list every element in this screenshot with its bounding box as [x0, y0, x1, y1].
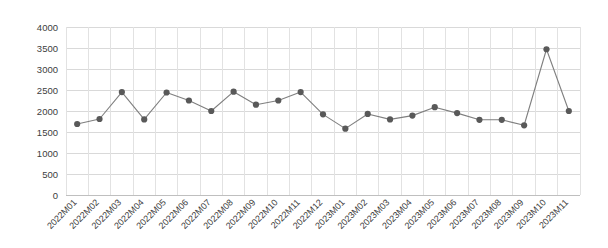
data-point[interactable] — [566, 108, 572, 114]
data-point[interactable] — [365, 111, 371, 117]
data-point[interactable] — [275, 97, 281, 103]
data-point[interactable] — [320, 111, 326, 117]
y-tick-label: 3500 — [37, 43, 58, 54]
chart-canvas: 05001000150020002500300035004000 2022M01… — [0, 0, 608, 248]
y-tick-label: 500 — [42, 169, 58, 180]
data-point[interactable] — [476, 117, 482, 123]
y-tick-label: 0 — [53, 190, 58, 201]
y-tick-label: 2500 — [37, 85, 58, 96]
data-point[interactable] — [253, 102, 259, 108]
data-point[interactable] — [96, 116, 102, 122]
data-point[interactable] — [208, 108, 214, 114]
y-tick-label: 1500 — [37, 127, 58, 138]
line-chart: 05001000150020002500300035004000 2022M01… — [0, 0, 608, 248]
data-point[interactable] — [119, 89, 125, 95]
data-point[interactable] — [74, 121, 80, 127]
data-point[interactable] — [186, 97, 192, 103]
y-tick-label: 1000 — [37, 148, 58, 159]
data-point[interactable] — [543, 46, 549, 52]
y-tick-label: 3000 — [37, 64, 58, 75]
y-tick-label: 2000 — [37, 106, 58, 117]
data-point[interactable] — [454, 110, 460, 116]
data-point[interactable] — [521, 122, 527, 128]
data-point[interactable] — [141, 116, 147, 122]
data-point[interactable] — [499, 117, 505, 123]
data-point[interactable] — [342, 126, 348, 132]
data-point[interactable] — [432, 104, 438, 110]
y-tick-label: 4000 — [37, 22, 58, 33]
data-point[interactable] — [387, 116, 393, 122]
data-point[interactable] — [298, 89, 304, 95]
data-point[interactable] — [409, 113, 415, 119]
data-point[interactable] — [231, 89, 237, 95]
data-point[interactable] — [163, 89, 169, 95]
